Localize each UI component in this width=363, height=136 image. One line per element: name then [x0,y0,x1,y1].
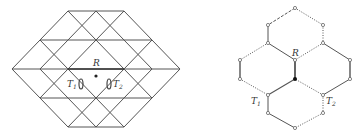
right-label-t2: T2 [326,96,336,107]
left-label-t1: T1 [67,79,77,90]
right-honeycomb [240,8,350,128]
t1-site-icon [79,79,83,89]
filled-node-icon [293,77,297,81]
left-label-r: R [92,58,100,68]
figure: R T1 T2 [0,0,363,136]
r-site-dot [94,74,97,77]
left-label-t2: T2 [113,79,123,90]
right-label-t1: T1 [251,96,261,107]
right-label-r: R [291,48,299,58]
